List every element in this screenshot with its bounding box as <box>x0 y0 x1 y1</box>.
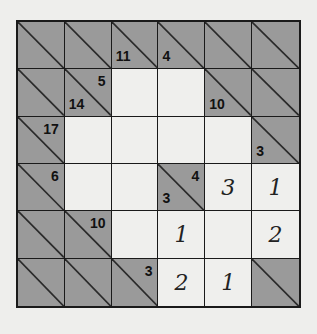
diagonal-divider-icon <box>18 211 64 257</box>
answer-cell[interactable] <box>65 164 112 211</box>
answer-cell[interactable] <box>65 117 112 164</box>
clue-cell <box>252 22 299 69</box>
cell-value <box>112 164 158 210</box>
clue-cell <box>18 69 65 116</box>
cell-value: 1 <box>252 164 299 210</box>
clue-cell <box>18 22 65 69</box>
cell-value <box>158 69 204 115</box>
cell-value: 1 <box>205 259 251 306</box>
cell-value <box>205 117 251 163</box>
cell-value <box>112 69 158 115</box>
diagonal-divider-icon <box>18 69 64 115</box>
cell-value: 1 <box>158 211 204 257</box>
answer-cell[interactable] <box>112 117 159 164</box>
answer-cell[interactable]: 1 <box>205 259 252 306</box>
down-clue: 3 <box>256 144 264 158</box>
answer-cell[interactable]: 1 <box>252 164 299 211</box>
clue-cell: 43 <box>158 164 205 211</box>
answer-cell[interactable]: 3 <box>205 164 252 211</box>
down-clue: 14 <box>69 97 85 111</box>
cell-value: 2 <box>252 211 299 257</box>
across-clue: 3 <box>145 264 153 278</box>
kakuro-board: 11451410173643311012321 <box>16 20 301 308</box>
diagonal-divider-icon <box>65 259 111 306</box>
answer-cell[interactable] <box>112 164 159 211</box>
down-clue: 3 <box>162 191 170 205</box>
across-clue: 5 <box>98 74 106 88</box>
clue-cell <box>65 22 112 69</box>
answer-cell[interactable] <box>112 69 159 116</box>
clue-cell: 6 <box>18 164 65 211</box>
clue-cell: 4 <box>158 22 205 69</box>
down-clue: 11 <box>116 49 131 63</box>
clue-cell <box>18 259 65 306</box>
cell-value <box>65 117 111 163</box>
clue-cell <box>252 69 299 116</box>
down-clue: 10 <box>209 97 225 111</box>
cell-value <box>112 211 158 257</box>
answer-cell[interactable] <box>158 69 205 116</box>
cell-value <box>65 164 111 210</box>
clue-cell: 3 <box>112 259 159 306</box>
diagonal-divider-icon <box>18 259 64 306</box>
answer-cell[interactable]: 2 <box>158 259 205 306</box>
diagonal-divider-icon <box>205 22 251 68</box>
cell-value <box>158 117 204 163</box>
across-clue: 10 <box>90 216 106 230</box>
cell-value: 2 <box>158 259 204 306</box>
clue-cell <box>18 211 65 258</box>
down-clue: 4 <box>162 49 170 63</box>
cell-value <box>205 211 251 257</box>
across-clue: 17 <box>43 122 59 136</box>
answer-cell[interactable] <box>205 211 252 258</box>
across-clue: 4 <box>192 169 200 183</box>
answer-cell[interactable]: 1 <box>158 211 205 258</box>
cell-value <box>112 117 158 163</box>
clue-cell: 514 <box>65 69 112 116</box>
clue-cell <box>65 259 112 306</box>
clue-cell <box>205 22 252 69</box>
diagonal-divider-icon <box>252 69 299 115</box>
clue-cell: 17 <box>18 117 65 164</box>
clue-cell: 3 <box>252 117 299 164</box>
diagonal-divider-icon <box>65 22 111 68</box>
answer-cell[interactable]: 2 <box>252 211 299 258</box>
clue-cell <box>252 259 299 306</box>
answer-cell[interactable] <box>112 211 159 258</box>
diagonal-divider-icon <box>252 22 299 68</box>
diagonal-divider-icon <box>252 259 299 306</box>
clue-cell: 10 <box>205 69 252 116</box>
clue-cell: 10 <box>65 211 112 258</box>
clue-cell: 11 <box>112 22 159 69</box>
cell-value: 3 <box>205 164 251 210</box>
answer-cell[interactable] <box>158 117 205 164</box>
diagonal-divider-icon <box>18 22 64 68</box>
across-clue: 6 <box>51 169 59 183</box>
answer-cell[interactable] <box>205 117 252 164</box>
